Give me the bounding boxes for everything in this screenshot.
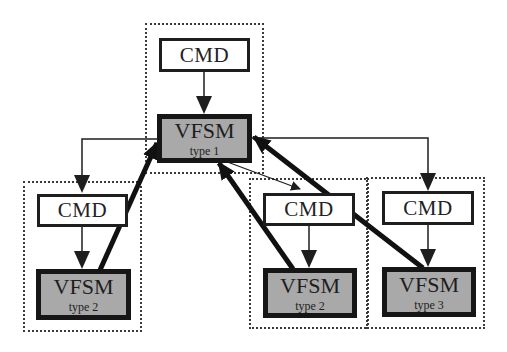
left-vfsm-box: VFSM type 2 — [36, 269, 131, 320]
right-cmd-box: CMD — [382, 191, 474, 225]
right-cmd-label: CMD — [403, 196, 452, 221]
middle-vfsm-box: VFSM type 2 — [263, 268, 357, 318]
top-cmd-box: CMD — [159, 38, 250, 72]
top-vfsm-label: VFSM — [175, 120, 235, 142]
left-vfsm-label: VFSM — [54, 276, 114, 298]
right-vfsm-type: type 3 — [414, 299, 444, 311]
left-cmd-label: CMD — [58, 198, 107, 223]
left-cmd-box: CMD — [37, 194, 128, 227]
right-vfsm-box: VFSM type 3 — [382, 267, 476, 317]
middle-cmd-label: CMD — [284, 197, 333, 222]
top-vfsm-box: VFSM type 1 — [157, 114, 252, 163]
middle-vfsm-type: type 2 — [295, 300, 325, 312]
middle-cmd-box: CMD — [263, 193, 355, 226]
diagram-canvas: CMD VFSM type 1 CMD VFSM type 2 CMD VFSM… — [0, 0, 507, 352]
left-vfsm-type: type 2 — [69, 301, 99, 313]
top-cmd-label: CMD — [180, 43, 229, 68]
middle-vfsm-label: VFSM — [280, 275, 340, 297]
right-vfsm-label: VFSM — [399, 274, 459, 296]
top-vfsm-type: type 1 — [190, 145, 220, 157]
